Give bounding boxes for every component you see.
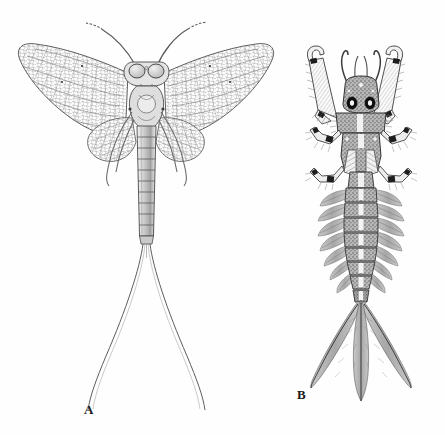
adult-abdomen xyxy=(137,126,156,244)
figure-label-a: A xyxy=(84,402,94,418)
illustration-plate: A B xyxy=(0,0,445,435)
nymph-head xyxy=(343,76,379,113)
adult-compound-eye-left xyxy=(129,64,145,78)
nymph-mesothorax xyxy=(341,133,381,176)
nymph-median-stripe xyxy=(359,189,364,300)
adult-compound-eye-right xyxy=(148,64,164,78)
mayfly-plate-svg xyxy=(0,0,445,435)
figure-label-b: B xyxy=(297,387,306,403)
